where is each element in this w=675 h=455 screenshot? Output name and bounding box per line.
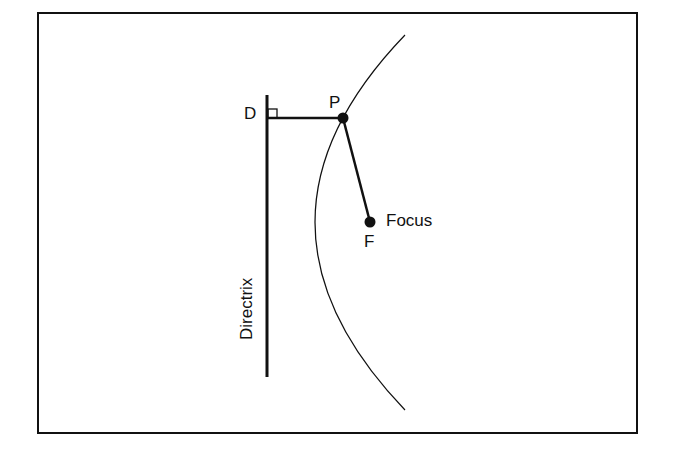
point-f [365,217,376,228]
frame-border [38,13,637,433]
label-p: P [329,93,340,112]
label-d: D [244,104,256,123]
segment-pf [343,118,370,222]
point-p [338,113,349,124]
label-directrix: Directrix [237,277,256,340]
label-f: F [364,232,374,251]
right-angle-marker [268,109,277,118]
parabola-diagram: D P F Focus Directrix [0,0,675,455]
label-focus: Focus [386,211,432,230]
